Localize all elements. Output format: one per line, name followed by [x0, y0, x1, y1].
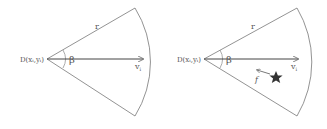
apex-label: D(xᵢ,yᵢ) [177, 56, 201, 64]
apex-label: D(xᵢ,yᵢ) [20, 56, 44, 64]
radius-label: r [95, 22, 99, 31]
right-sector: D(xᵢ,yᵢ) β r vi f [177, 8, 312, 116]
force-label: f [254, 75, 260, 84]
sector-outline [204, 8, 312, 116]
radius-label: r [251, 22, 255, 31]
sector-diagram: D(xᵢ,yᵢ) β r vi D(xᵢ,yᵢ) β r vi f [0, 0, 327, 129]
left-sector: D(xᵢ,yᵢ) β r vi [20, 8, 150, 116]
velocity-label: vi [290, 62, 298, 72]
angle-label: β [69, 54, 75, 65]
star-icon [269, 71, 282, 83]
velocity-label: vi [134, 62, 142, 72]
angle-label: β [226, 54, 232, 65]
force-arrow [257, 70, 270, 74]
